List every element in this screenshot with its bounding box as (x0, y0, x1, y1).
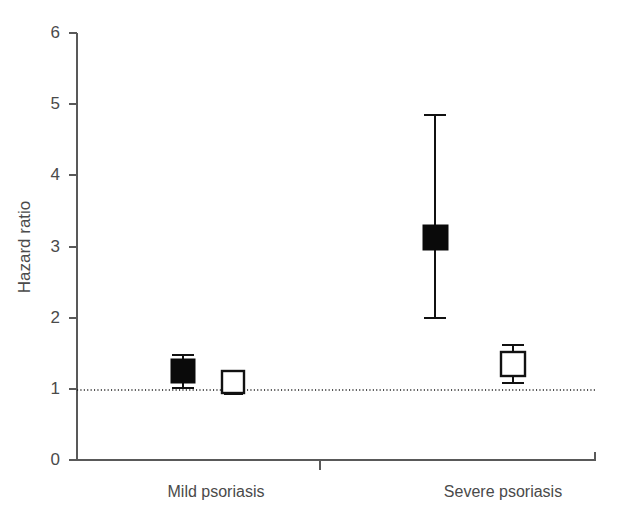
y-tick-label-6: 6 (51, 23, 60, 42)
datapoint-severe-open (501, 345, 525, 383)
datapoint-severe-filled (423, 115, 448, 318)
chart-canvas: 6 5 4 3 2 1 0 Hazard ratio (0, 0, 619, 528)
y-tick-label-0: 0 (51, 450, 60, 469)
marker-filled-square (171, 359, 195, 383)
x-category-label-mild: Mild psoriasis (168, 483, 265, 500)
y-axis-title: Hazard ratio (15, 201, 34, 294)
y-axis-ticks (69, 33, 77, 460)
marker-filled-square (423, 225, 448, 250)
hazard-ratio-chart: 6 5 4 3 2 1 0 Hazard ratio (0, 0, 619, 528)
datapoint-mild-open (222, 371, 244, 394)
marker-open-square (222, 371, 244, 393)
y-tick-label-5: 5 (51, 94, 60, 113)
y-tick-label-4: 4 (51, 165, 60, 184)
marker-open-square (501, 352, 525, 376)
x-category-label-severe: Severe psoriasis (444, 483, 562, 500)
y-tick-label-3: 3 (51, 237, 60, 256)
y-tick-label-2: 2 (51, 308, 60, 327)
y-tick-label-1: 1 (51, 379, 60, 398)
datapoint-mild-filled (171, 355, 195, 388)
